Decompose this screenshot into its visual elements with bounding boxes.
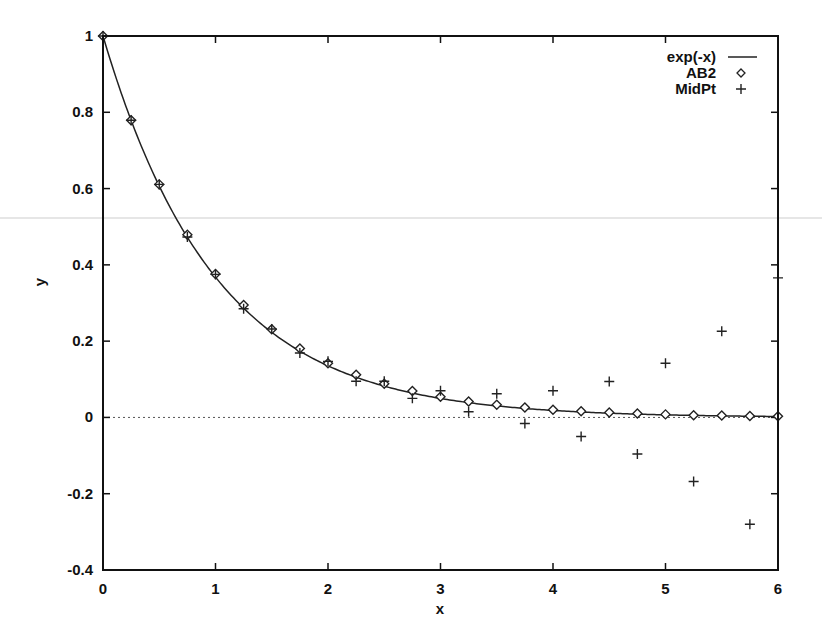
y-tick-label: 0 bbox=[85, 408, 93, 425]
x-tick-label: 2 bbox=[324, 580, 332, 597]
x-axis-label: x bbox=[436, 600, 445, 617]
y-tick-label: 0.4 bbox=[72, 256, 94, 273]
y-tick-label: 1 bbox=[85, 27, 93, 44]
x-tick-label: 3 bbox=[436, 580, 444, 597]
x-tick-label: 5 bbox=[661, 580, 669, 597]
y-tick-label: -0.4 bbox=[67, 561, 94, 578]
y-tick-label: 0.6 bbox=[72, 180, 93, 197]
y-tick-label: -0.2 bbox=[67, 485, 93, 502]
x-tick-label: 4 bbox=[549, 580, 558, 597]
x-tick-label: 0 bbox=[99, 580, 107, 597]
chart: -0.4-0.200.20.40.60.81 0123456 x y exp(-… bbox=[0, 0, 822, 642]
x-tick-label: 6 bbox=[774, 580, 782, 597]
y-tick-label: 0.8 bbox=[72, 103, 93, 120]
legend-label: MidPt bbox=[675, 80, 716, 97]
x-tick-label: 1 bbox=[211, 580, 219, 597]
legend-label: exp(-x) bbox=[667, 48, 716, 65]
y-axis-label: y bbox=[31, 277, 48, 286]
legend-label: AB2 bbox=[686, 64, 716, 81]
y-tick-label: 0.2 bbox=[72, 332, 93, 349]
